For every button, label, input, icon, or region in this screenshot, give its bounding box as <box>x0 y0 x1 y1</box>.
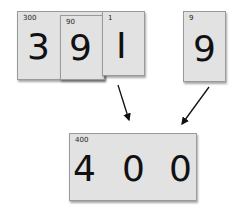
card-400-digit-tens: 0 <box>122 151 145 187</box>
arrow-right <box>182 87 209 124</box>
card-400: 400 4 0 0 <box>69 133 197 201</box>
card-400-digit-ones: 0 <box>169 151 192 187</box>
card-400-digit-hundreds: 4 <box>73 151 96 187</box>
arrow-left <box>118 85 129 120</box>
card-400-label: 400 <box>75 137 88 144</box>
